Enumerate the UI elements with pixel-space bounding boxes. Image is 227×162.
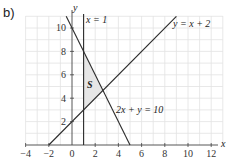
x-tick-label: 2 [93,148,98,159]
x-tick-label: 4 [116,148,121,159]
y-tick-label: 2 [61,116,66,127]
x-tick-label: −2 [43,148,54,159]
region-s-label: S [87,79,93,90]
graph: −4 −2 0 2 4 6 8 10 12 2 4 6 8 10 x y x =… [0,0,227,162]
x-tick-label: 6 [139,148,144,159]
line-y-equals-x-plus-2 [49,16,177,145]
label-2x-plus-y-equals-10: 2x + y = 10 [116,104,163,115]
grid [26,16,223,145]
y-tick-label: 10 [56,22,66,33]
y-axis-label: y [72,2,78,13]
x-tick-label: 0 [70,148,75,159]
x-axis-label: x [220,138,226,149]
line-2x-plus-y-equals-10 [66,16,130,145]
x-tick-label: 10 [183,148,193,159]
x-tick-label: −4 [20,148,31,159]
y-tick-label: 4 [61,93,66,104]
x-tick-label: 12 [206,148,216,159]
label-x-equals-1: x = 1 [85,14,107,25]
label-y-equals-x-plus-2: y = x + 2 [172,18,210,29]
x-tick-label: 8 [162,148,167,159]
y-tick-label: 8 [61,46,66,57]
y-tick-label: 6 [61,69,66,80]
